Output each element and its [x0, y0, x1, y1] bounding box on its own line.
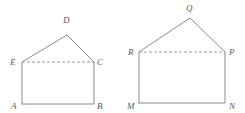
left-vertex-label-B: B	[97, 101, 103, 111]
left-vertex-label-E: E	[9, 57, 16, 67]
left-pentagon-group: D E C A B	[9, 15, 104, 111]
right-vertex-label-R: R	[127, 47, 134, 57]
right-pentagon-group: Q R P M N	[126, 3, 236, 111]
right-vertex-label-P: P	[228, 47, 235, 57]
left-pentagon-outline	[22, 35, 94, 104]
left-vertex-label-A: A	[10, 101, 17, 111]
right-vertex-label-N: N	[228, 101, 236, 111]
right-vertex-label-Q: Q	[186, 3, 193, 13]
left-vertex-label-D: D	[62, 15, 70, 25]
right-vertex-label-M: M	[126, 101, 135, 111]
left-vertex-label-C: C	[97, 57, 104, 67]
geometry-figure-canvas: D E C A B Q R P M N	[0, 0, 245, 113]
right-pentagon-outline	[139, 18, 225, 103]
